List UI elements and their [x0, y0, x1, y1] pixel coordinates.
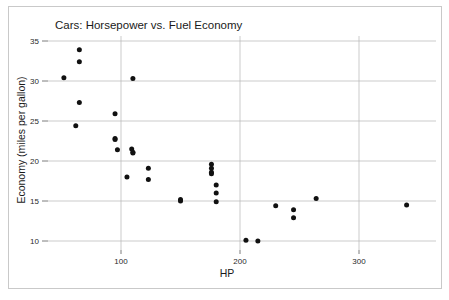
y-tick-label: 25 [30, 117, 39, 126]
y-tick-label: 20 [30, 157, 39, 166]
y-tick-label: 35 [30, 37, 39, 46]
data-point [214, 183, 219, 188]
data-point [214, 199, 219, 204]
data-points-group [61, 47, 409, 243]
chart-title: Cars: Horsepower vs. Fuel Economy [55, 19, 243, 31]
data-point [291, 207, 296, 212]
y-tick-labels-group: 101520253035 [30, 37, 39, 246]
data-point [73, 123, 78, 128]
data-point [77, 47, 82, 52]
data-point [255, 239, 260, 244]
data-point [273, 203, 278, 208]
chart-canvas: Cars: Horsepower vs. Fuel Economy 100200… [0, 0, 449, 300]
data-point [178, 199, 183, 204]
data-point [61, 75, 66, 80]
gridlines-group [48, 36, 436, 250]
data-point [209, 171, 214, 176]
y-tick-label: 15 [30, 197, 39, 206]
x-axis-title: HP [220, 267, 235, 279]
data-point [77, 59, 82, 64]
x-tick-labels-group: 100200300 [114, 257, 366, 266]
data-point [124, 175, 129, 180]
scatter-plot-figure: Cars: Horsepower vs. Fuel Economy 100200… [0, 0, 449, 300]
x-tick-label: 100 [114, 257, 128, 266]
data-point [146, 177, 151, 182]
data-point [130, 150, 135, 155]
data-point [243, 238, 248, 243]
data-point [113, 137, 118, 142]
y-tick-label: 30 [30, 77, 39, 86]
data-point [291, 215, 296, 220]
tickmarks-group [42, 41, 359, 254]
data-point [77, 100, 82, 105]
data-point [314, 196, 319, 201]
y-tick-label: 10 [30, 237, 39, 246]
data-point [404, 203, 409, 208]
data-point [146, 166, 151, 171]
x-tick-label: 200 [233, 257, 247, 266]
data-point [115, 147, 120, 152]
x-tick-label: 300 [352, 257, 366, 266]
data-point [214, 191, 219, 196]
data-point [113, 111, 118, 116]
data-point [130, 76, 135, 81]
y-axis-title: Economy (miles per gallon) [15, 76, 27, 203]
